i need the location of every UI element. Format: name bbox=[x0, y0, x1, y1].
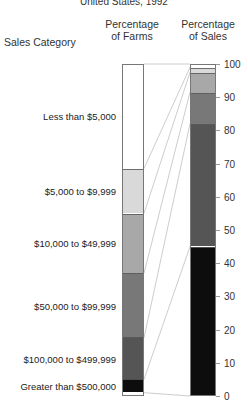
percentage-axis: 0102030405060708090100 bbox=[216, 64, 248, 396]
category-label-0: Less than $5,000 bbox=[0, 111, 120, 122]
sales-segment-5 bbox=[191, 247, 215, 396]
chart-canvas: United States, 1992 Sales Category Perce… bbox=[0, 0, 248, 407]
category-label-5: Greater than $500,000 bbox=[0, 381, 120, 392]
axis-tick-label-90: 90 bbox=[224, 92, 235, 103]
axis-tick-mark-20 bbox=[216, 330, 220, 331]
axis-tick-label-20: 20 bbox=[224, 324, 235, 335]
farms-segment-4 bbox=[123, 337, 143, 378]
axis-tick-mark-70 bbox=[216, 164, 220, 165]
axis-tick-label-10: 10 bbox=[224, 357, 235, 368]
axis-tick-label-50: 50 bbox=[224, 225, 235, 236]
axis-tick-mark-0 bbox=[216, 396, 220, 397]
axis-tick-mark-50 bbox=[216, 230, 220, 231]
category-label-group: Less than $5,000$5,000 to $9,999$10,000 … bbox=[0, 0, 120, 407]
sales-segment-4 bbox=[191, 124, 215, 246]
farms-segment-5 bbox=[123, 379, 143, 392]
axis-tick-label-60: 60 bbox=[224, 191, 235, 202]
axis-tick-mark-100 bbox=[216, 64, 220, 65]
axis-tick-mark-60 bbox=[216, 197, 220, 198]
axis-tick-label-80: 80 bbox=[224, 125, 235, 136]
axis-tick-mark-30 bbox=[216, 296, 220, 297]
connector-line-2 bbox=[144, 72, 190, 213]
connector-line-1 bbox=[144, 67, 190, 168]
axis-tick-label-0: 0 bbox=[224, 391, 230, 402]
axis-tick-label-100: 100 bbox=[224, 59, 241, 70]
connector-line-5 bbox=[144, 247, 190, 380]
axis-tick-label-40: 40 bbox=[224, 258, 235, 269]
connector-line-6 bbox=[144, 393, 190, 396]
category-label-1: $5,000 to $9,999 bbox=[0, 185, 120, 196]
sales-stacked-bar bbox=[190, 64, 216, 396]
sales-segment-3 bbox=[191, 93, 215, 124]
connector-line-4 bbox=[144, 124, 190, 338]
axis-tick-mark-40 bbox=[216, 263, 220, 264]
category-label-4: $100,000 to $499,999 bbox=[0, 353, 120, 364]
axis-tick-label-30: 30 bbox=[224, 291, 235, 302]
axis-tick-label-70: 70 bbox=[224, 158, 235, 169]
farms-segment-3 bbox=[123, 273, 143, 337]
axis-tick-mark-80 bbox=[216, 130, 220, 131]
farms-segment-2 bbox=[123, 214, 143, 273]
farms-segment-0 bbox=[123, 65, 143, 169]
sales-header-line2: of Sales bbox=[178, 30, 238, 42]
connector-line-3 bbox=[144, 92, 190, 273]
sales-header-line1: Percentage bbox=[178, 18, 238, 30]
sales-segment-2 bbox=[191, 73, 215, 93]
farms-stacked-bar bbox=[122, 64, 144, 396]
category-label-3: $50,000 to $99,999 bbox=[0, 300, 120, 311]
percentage-of-sales-header: Percentage of Sales bbox=[178, 18, 238, 42]
axis-tick-mark-10 bbox=[216, 363, 220, 364]
category-label-2: $10,000 to $49,999 bbox=[0, 238, 120, 249]
axis-tick-mark-90 bbox=[216, 97, 220, 98]
farms-segment-1 bbox=[123, 169, 143, 214]
